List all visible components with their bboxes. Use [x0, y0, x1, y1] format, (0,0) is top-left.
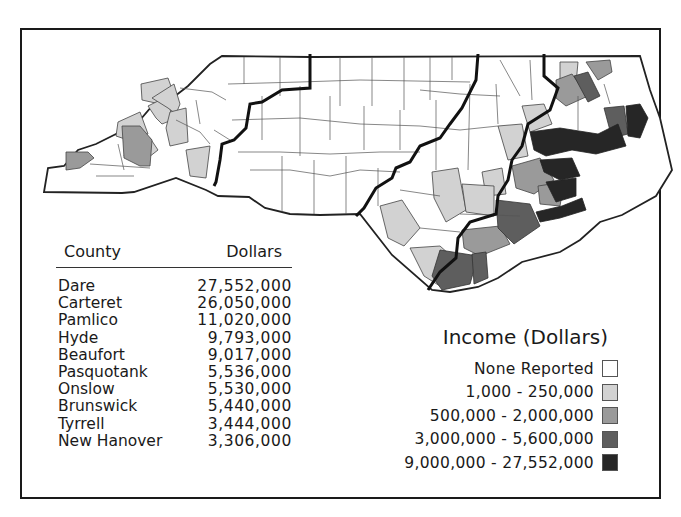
- legend-label: 3,000,000 - 5,600,000: [414, 430, 594, 448]
- county-name: Tyrrell: [58, 416, 105, 433]
- legend-title: Income (Dollars): [360, 325, 618, 349]
- legend-swatch-none: [602, 360, 618, 377]
- legend-item: 1,000 - 250,000: [360, 381, 618, 405]
- county-name: Pasquotank: [58, 364, 148, 381]
- legend-label: 9,000,000 - 27,552,000: [404, 454, 594, 472]
- legend-swatch-top: [602, 454, 618, 471]
- county-name: Dare: [58, 278, 95, 295]
- legend-swatch-high: [602, 431, 618, 448]
- county-name: Brunswick: [58, 398, 137, 415]
- dollar-value: 9,017,000: [208, 347, 292, 364]
- dollar-value: 3,444,000: [208, 416, 292, 433]
- table-row: Pasquotank5,536,000: [56, 364, 292, 381]
- legend-swatch-low: [602, 384, 618, 401]
- table-row: Dare27,552,000: [56, 278, 292, 295]
- table-row: Hyde9,793,000: [56, 330, 292, 347]
- table-row: Tyrrell3,444,000: [56, 416, 292, 433]
- map-legend: Income (Dollars) None Reported 1,000 - 2…: [360, 325, 618, 475]
- table-row: Onslow5,530,000: [56, 381, 292, 398]
- dollar-value: 9,793,000: [208, 330, 292, 347]
- county-name: New Hanover: [58, 433, 162, 450]
- legend-swatch-mid: [602, 407, 618, 424]
- legend-label: 500,000 - 2,000,000: [430, 407, 594, 425]
- table-row: New Hanover3,306,000: [56, 433, 292, 450]
- legend-item: None Reported: [360, 357, 618, 381]
- dollar-value: 5,530,000: [208, 381, 292, 398]
- dollar-value: 5,440,000: [208, 398, 292, 415]
- table-row: Pamlico11,020,000: [56, 312, 292, 329]
- column-header-dollars: Dollars: [226, 242, 282, 261]
- table-row: Beaufort9,017,000: [56, 347, 292, 364]
- legend-item: 500,000 - 2,000,000: [360, 404, 618, 428]
- dollar-value: 27,552,000: [197, 278, 292, 295]
- table-header: County Dollars: [56, 242, 292, 268]
- county-name: Beaufort: [58, 347, 125, 364]
- county-name: Pamlico: [58, 312, 118, 329]
- county-income-table: County Dollars Dare27,552,000 Carteret26…: [56, 242, 292, 450]
- table-row: Brunswick5,440,000: [56, 398, 292, 415]
- county-name: Carteret: [58, 295, 122, 312]
- column-header-county: County: [64, 242, 121, 261]
- table-row: Carteret26,050,000: [56, 295, 292, 312]
- county-name: Hyde: [58, 330, 98, 347]
- county-name: Onslow: [58, 381, 115, 398]
- legend-item: 9,000,000 - 27,552,000: [360, 451, 618, 475]
- dollar-value: 5,536,000: [208, 364, 292, 381]
- legend-label: None Reported: [474, 360, 594, 378]
- legend-label: 1,000 - 250,000: [466, 383, 594, 401]
- dollar-value: 26,050,000: [197, 295, 292, 312]
- dollar-value: 3,306,000: [208, 433, 292, 450]
- dollar-value: 11,020,000: [197, 312, 292, 329]
- legend-item: 3,000,000 - 5,600,000: [360, 428, 618, 452]
